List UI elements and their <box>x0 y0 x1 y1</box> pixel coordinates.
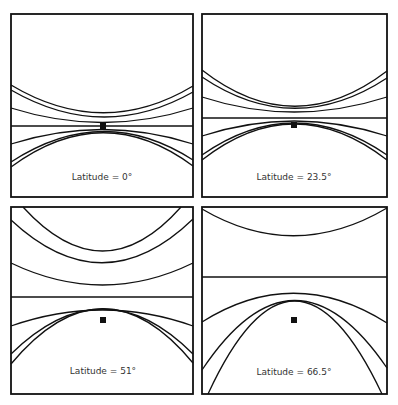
panel-frame <box>202 14 387 197</box>
sun-path-curve <box>11 108 193 123</box>
latitude-diagram: Latitude = 0° Latitude = 23.5° L <box>0 0 398 405</box>
panel-latitude-23-5: Latitude = 23.5° <box>202 14 387 197</box>
panel-label: Latitude = 51° <box>70 366 136 376</box>
sun-path-curve <box>11 309 193 354</box>
sun-path-curve <box>202 124 387 160</box>
sun-path-curve <box>11 219 193 263</box>
panel-label: Latitude = 23.5° <box>257 172 332 182</box>
observer-marker <box>100 317 106 323</box>
panel-latitude-51: Latitude = 51° <box>11 207 193 394</box>
panel-label: Latitude = 0° <box>72 172 133 182</box>
sun-path-curve <box>208 301 382 394</box>
panel-latitude-0: Latitude = 0° <box>11 14 193 197</box>
sun-path-curve <box>11 263 193 285</box>
sun-path-curve <box>23 207 181 251</box>
panel-label: Latitude = 66.5° <box>257 367 332 377</box>
sun-path-curve <box>202 208 387 236</box>
sun-path-curve <box>11 85 193 113</box>
sun-path-curve <box>202 300 387 370</box>
sun-path-curve <box>11 133 193 167</box>
observer-marker <box>100 123 106 129</box>
sun-path-curve <box>202 77 387 108</box>
sun-path-curve <box>202 97 387 112</box>
observer-marker <box>291 122 297 128</box>
sun-path-curve <box>202 70 387 106</box>
observer-marker <box>291 317 297 323</box>
panel-latitude-66-5: Latitude = 66.5° <box>202 207 387 394</box>
